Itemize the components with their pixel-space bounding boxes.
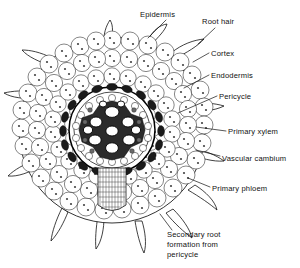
label-primary-xylem: Primary xylem	[228, 127, 278, 136]
label-cortex: Cortex	[211, 49, 234, 58]
label-secondary-root-line2: formation from	[167, 240, 218, 249]
label-pericycle: Pericycle	[219, 92, 251, 101]
label-epidermis: Epidermis	[140, 10, 175, 19]
label-secondary-root-line1: Secondary root	[167, 230, 221, 239]
label-primary-phloem: Primary phloem	[212, 184, 267, 193]
secondary-root	[98, 168, 126, 213]
label-secondary-root-line3: pericycle	[167, 250, 198, 259]
label-endodermis: Endodermis	[211, 71, 253, 80]
root-cross-section-diagram: Epidermis Root hair Cortex Endodermis Pe…	[0, 0, 300, 268]
label-root-hair: Root hair	[202, 17, 234, 26]
label-vascular-cambium: Vascular cambium	[222, 154, 286, 163]
diagram-canvas: Epidermis Root hair Cortex Endodermis Pe…	[0, 0, 300, 268]
